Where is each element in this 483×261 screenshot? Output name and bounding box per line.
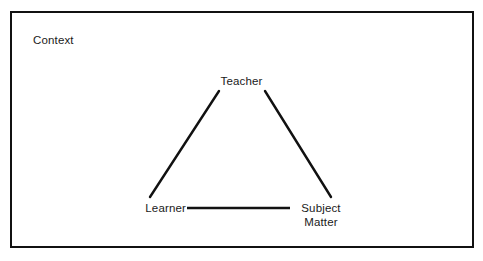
vertex-label-subject-matter: Subject Matter — [291, 201, 351, 229]
vertex-label-subject-matter-line2: Matter — [291, 215, 351, 229]
vertex-label-teacher: Teacher — [0, 74, 483, 88]
vertex-label-subject-matter-line1: Subject — [291, 201, 351, 215]
context-label: Context — [33, 33, 74, 47]
vertex-label-learner: Learner — [60, 201, 186, 215]
figure-root: Context Teacher Learner Subject Matter — [0, 0, 483, 261]
